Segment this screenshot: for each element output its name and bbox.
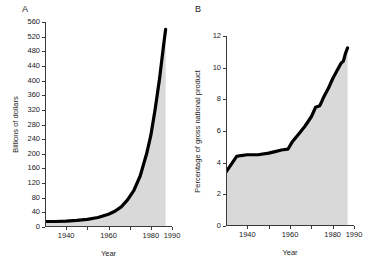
panel-a-letter: A: [22, 4, 28, 14]
panel-a-area-fill: [45, 29, 166, 227]
y-tick-mark: [42, 183, 45, 184]
y-tick-label: 480: [27, 48, 40, 56]
y-tick-mark: [42, 22, 45, 23]
panel-b-area-fill: [226, 48, 348, 226]
y-tick-mark: [223, 194, 226, 195]
y-tick-mark: [223, 99, 226, 100]
x-tick-mark: [172, 227, 173, 230]
x-tick-mark: [87, 227, 88, 230]
y-tick-mark: [42, 110, 45, 111]
y-tick-label: 12: [213, 32, 221, 40]
y-tick-mark: [42, 125, 45, 126]
panel-a-ylabel-box: Billions of dollars: [8, 22, 22, 227]
x-tick-mark: [290, 226, 291, 229]
x-tick-mark: [354, 226, 355, 229]
y-tick-label: 40: [32, 209, 40, 217]
y-tick-label: 160: [27, 165, 40, 173]
y-tick-mark: [42, 139, 45, 140]
x-tick-label: 1980: [142, 232, 159, 240]
panel-b-plot-area: [226, 36, 354, 226]
panel-b: B Percentage of gross national product 0…: [188, 0, 376, 269]
y-tick-mark: [42, 81, 45, 82]
x-tick-mark: [130, 227, 131, 230]
y-tick-mark: [42, 37, 45, 38]
panel-a-xlabel: Year: [45, 249, 172, 258]
x-tick-mark: [247, 226, 248, 229]
panel-b-y-axis: [226, 36, 227, 226]
x-tick-label: 1990: [346, 231, 363, 239]
y-tick-label: 200: [27, 150, 40, 158]
y-tick-label: 280: [27, 121, 40, 129]
y-tick-label: 8: [217, 96, 221, 104]
panel-a-plot-area: [45, 22, 172, 227]
figure-two-panel-chart: A Billions of dollars 040801201602002402…: [0, 0, 376, 269]
y-tick-label: 120: [27, 179, 40, 187]
panel-b-letter: B: [195, 4, 201, 14]
y-tick-mark: [223, 163, 226, 164]
panel-a-series-svg: [45, 22, 172, 227]
y-tick-mark: [223, 226, 226, 227]
x-tick-label: 1990: [164, 232, 181, 240]
panel-a: A Billions of dollars 040801201602002402…: [0, 0, 188, 269]
y-tick-label: 440: [27, 62, 40, 70]
y-tick-label: 4: [217, 159, 221, 167]
y-tick-mark: [223, 131, 226, 132]
x-tick-mark: [151, 227, 152, 230]
y-tick-mark: [42, 66, 45, 67]
y-tick-label: 2: [217, 191, 221, 199]
x-tick-mark: [109, 227, 110, 230]
y-tick-mark: [42, 51, 45, 52]
x-tick-label: 1980: [324, 231, 341, 239]
x-tick-mark: [311, 226, 312, 229]
panel-b-plot: 024681012 1940196019801990: [226, 36, 354, 226]
x-tick-mark: [269, 226, 270, 229]
y-tick-mark: [42, 212, 45, 213]
y-tick-mark: [223, 36, 226, 37]
x-tick-mark: [66, 227, 67, 230]
panel-a-plot: 0408012016020024028032036040044048052056…: [45, 22, 172, 227]
x-tick-mark: [333, 226, 334, 229]
y-tick-label: 520: [27, 33, 40, 41]
y-tick-label: 6: [217, 127, 221, 135]
x-tick-label: 1940: [239, 231, 256, 239]
y-tick-label: 80: [32, 194, 40, 202]
x-tick-label: 1940: [58, 232, 75, 240]
panel-b-ylabel: Percentage of gross national product: [193, 70, 202, 193]
y-tick-mark: [42, 168, 45, 169]
y-tick-label: 360: [27, 91, 40, 99]
panel-b-xlabel: Year: [226, 248, 354, 257]
panel-b-ylabel-box: Percentage of gross national product: [190, 36, 204, 226]
y-tick-label: 10: [213, 64, 221, 72]
x-tick-label: 1960: [100, 232, 117, 240]
y-tick-label: 0: [217, 222, 221, 230]
y-tick-mark: [223, 68, 226, 69]
panel-a-ylabel: Billions of dollars: [11, 96, 20, 152]
panel-b-series-svg: [226, 36, 354, 226]
y-tick-mark: [42, 154, 45, 155]
panel-a-y-axis: [45, 22, 46, 227]
y-tick-label: 400: [27, 77, 40, 85]
x-tick-label: 1960: [282, 231, 299, 239]
y-tick-label: 0: [36, 223, 40, 231]
y-tick-label: 560: [27, 18, 40, 26]
y-tick-label: 320: [27, 106, 40, 114]
y-tick-label: 240: [27, 135, 40, 143]
y-tick-mark: [42, 95, 45, 96]
y-tick-mark: [42, 198, 45, 199]
y-tick-mark: [42, 227, 45, 228]
